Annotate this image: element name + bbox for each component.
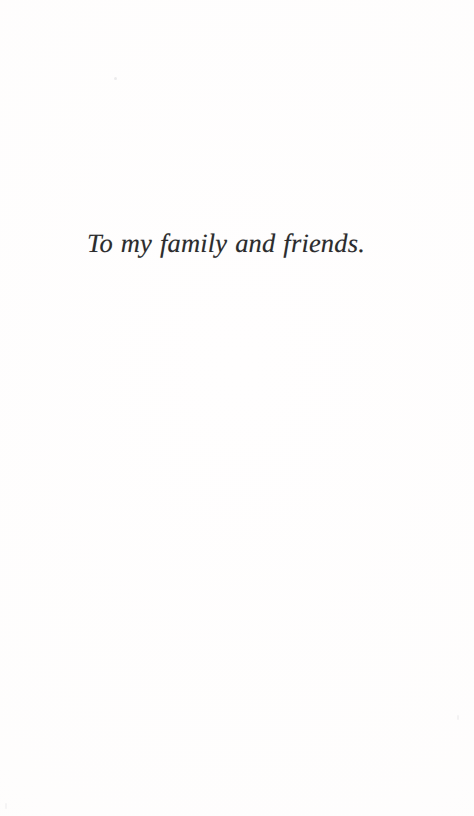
scan-artifact-speck-bottom-left (5, 803, 7, 809)
scan-artifact-speck-lower-right (457, 715, 459, 720)
scanned-page: To my family and friends. (0, 0, 474, 816)
dedication-block: To my family and friends. (0, 0, 474, 264)
dedication-inner: To my family and friends. (87, 230, 365, 264)
dedication-text: To my family and friends. (87, 230, 365, 258)
